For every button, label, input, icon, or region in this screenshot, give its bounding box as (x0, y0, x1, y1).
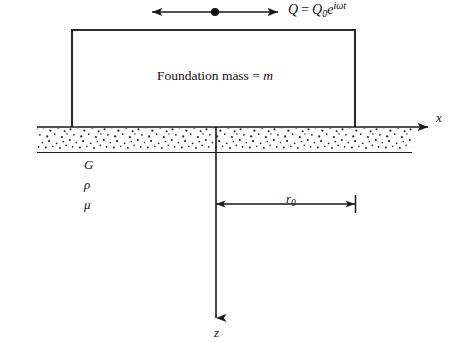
foundation-mass-text: Foundation mass (157, 68, 249, 83)
excitation-symbol: Q (288, 2, 298, 17)
radius-dimension-label: r0 (286, 192, 296, 209)
excitation-amplitude: Q (312, 2, 322, 17)
excitation-center-dot (211, 8, 219, 16)
foundation-vibration-diagram: Q=Q0eiωt Foundation mass = m G ρ μ x z r… (0, 0, 466, 342)
foundation-mass-equals: = (252, 68, 260, 83)
foundation-mass-label: Foundation mass = m (157, 69, 273, 83)
excitation-equals: = (298, 2, 312, 17)
soil-property-mass-density: ρ (84, 178, 90, 191)
excitation-arrow-group (152, 8, 278, 16)
excitation-equation-label: Q=Q0eiωt (288, 1, 346, 19)
soil-half-space (37, 128, 412, 153)
radius-subscript: 0 (291, 198, 296, 208)
soil-property-poisson-ratio: μ (84, 198, 91, 211)
diagram-canvas (0, 0, 466, 342)
excitation-exponential-exponent: iωt (333, 0, 346, 11)
soil-property-shear-modulus: G (84, 158, 93, 171)
soil-stipple-band (37, 128, 412, 152)
x-axis-label: x (436, 111, 442, 124)
foundation-mass-variable: m (263, 68, 273, 83)
z-axis-label: z (214, 326, 219, 339)
